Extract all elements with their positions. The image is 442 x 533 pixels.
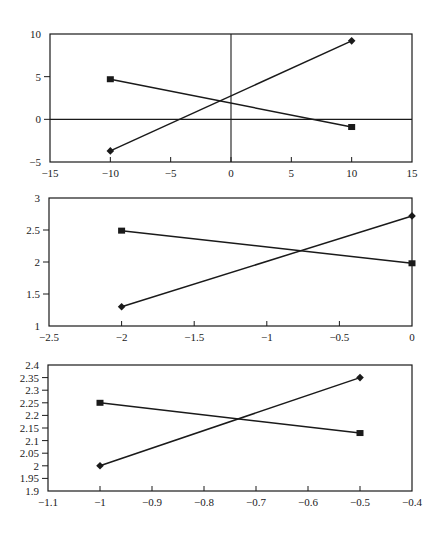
x-tick-label: −2.5 — [39, 331, 59, 343]
y-tick-label: 2.3 — [25, 384, 39, 396]
y-tick-label: 2.5 — [26, 224, 40, 236]
y-tick-label: 2.15 — [20, 422, 40, 434]
y-tick-label: 2.05 — [20, 447, 40, 459]
plot-area-frame — [48, 365, 412, 491]
square-series-line — [122, 231, 412, 264]
y-tick-label: 3 — [35, 192, 41, 204]
x-tick-label: −1.1 — [38, 496, 58, 508]
plot-area-frame — [49, 198, 412, 326]
square-marker-icon — [118, 228, 125, 234]
x-tick-label: −1.5 — [184, 331, 204, 343]
diamond-series-line — [100, 378, 360, 466]
y-tick-label: 2.35 — [20, 372, 40, 384]
y-tick-label: 2.4 — [25, 359, 39, 371]
chart-figure: −15−10−5051015−50510 −2.5−2−1.5−1−0.5011… — [0, 0, 442, 533]
x-tick-label: −0.4 — [402, 496, 422, 508]
y-tick-label: 2.2 — [25, 409, 39, 421]
square-series-line — [100, 403, 360, 433]
diamond-marker-icon — [408, 212, 416, 220]
square-marker-icon — [409, 260, 416, 266]
y-tick-label: 10 — [30, 28, 42, 40]
x-tick-label: −5 — [165, 167, 177, 179]
y-tick-label: 1 — [35, 320, 41, 332]
x-tick-label: −1 — [261, 331, 273, 343]
square-marker-icon — [107, 76, 114, 82]
chart-middle: −2.5−2−1.5−1−0.5011.522.53 — [0, 180, 442, 355]
diamond-marker-icon — [107, 147, 115, 155]
y-tick-label: 0 — [36, 113, 42, 125]
square-marker-icon — [97, 400, 104, 406]
x-tick-label: −1 — [94, 496, 106, 508]
y-tick-label: 2.25 — [20, 397, 40, 409]
x-tick-label: −0.5 — [350, 496, 370, 508]
diamond-marker-icon — [96, 462, 104, 470]
y-tick-label: 2 — [35, 256, 41, 268]
chart-bottom: −1.1−1−0.9−0.8−0.7−0.6−0.5−0.41.91.9522.… — [0, 355, 442, 533]
x-tick-label: −0.8 — [194, 496, 214, 508]
y-tick-label: 2 — [34, 460, 40, 472]
diamond-marker-icon — [356, 374, 364, 382]
x-tick-label: −0.5 — [329, 331, 349, 343]
x-tick-label: 10 — [346, 167, 358, 179]
x-tick-label: −0.7 — [246, 496, 266, 508]
y-tick-label: 2.1 — [25, 435, 39, 447]
y-tick-label: 1.5 — [26, 288, 40, 300]
square-marker-icon — [357, 430, 364, 436]
diamond-series-line — [122, 216, 412, 307]
diamond-marker-icon — [118, 303, 126, 311]
x-tick-label: 0 — [228, 167, 234, 179]
x-tick-label: 5 — [289, 167, 295, 179]
square-marker-icon — [348, 124, 355, 130]
y-tick-label: 1.9 — [25, 485, 39, 497]
x-tick-label: −0.6 — [298, 496, 318, 508]
x-tick-label: −15 — [41, 167, 59, 179]
diamond-marker-icon — [348, 37, 356, 45]
x-tick-label: 15 — [407, 167, 419, 179]
x-tick-label: −0.9 — [142, 496, 162, 508]
x-tick-label: 0 — [409, 331, 415, 343]
y-tick-label: 5 — [36, 71, 42, 83]
y-tick-label: −5 — [29, 156, 41, 168]
chart-top: −15−10−5051015−50510 — [0, 0, 442, 180]
x-tick-label: −2 — [116, 331, 128, 343]
y-tick-label: 1.95 — [20, 472, 40, 484]
x-tick-label: −10 — [102, 167, 120, 179]
